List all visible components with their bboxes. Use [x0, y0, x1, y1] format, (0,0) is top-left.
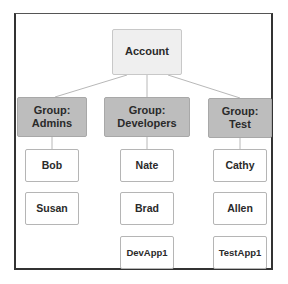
member-label: Nate: [136, 159, 159, 172]
member-label: Bob: [42, 159, 62, 172]
member-node-nate: Nate: [120, 149, 174, 182]
member-node-brad: Brad: [120, 192, 174, 225]
group-name: Admins: [32, 117, 72, 130]
member-label: Susan: [36, 202, 68, 215]
member-label: Allen: [227, 202, 253, 215]
account-node: Account: [112, 29, 182, 75]
member-label: Cathy: [225, 159, 254, 172]
member-label: DevApp1: [126, 247, 167, 258]
group-test-node: Group: Test: [208, 98, 272, 138]
group-prefix: Group:: [129, 104, 166, 117]
diagram-canvas: Account Group: Admins Group: Developers …: [0, 0, 288, 284]
member-label: TestApp1: [219, 247, 262, 258]
member-node-testapp1: TestApp1: [213, 236, 267, 269]
member-node-susan: Susan: [25, 192, 79, 225]
group-name: Developers: [117, 117, 176, 130]
group-prefix: Group:: [34, 104, 71, 117]
group-prefix: Group:: [222, 105, 259, 118]
member-node-bob: Bob: [25, 149, 79, 182]
group-admins-node: Group: Admins: [17, 97, 87, 137]
group-name: Test: [229, 118, 251, 131]
account-label: Account: [125, 45, 169, 58]
member-node-allen: Allen: [213, 192, 267, 225]
member-node-cathy: Cathy: [213, 149, 267, 182]
group-developers-node: Group: Developers: [104, 97, 190, 137]
member-label: Brad: [135, 202, 159, 215]
member-node-devapp1: DevApp1: [120, 236, 174, 269]
